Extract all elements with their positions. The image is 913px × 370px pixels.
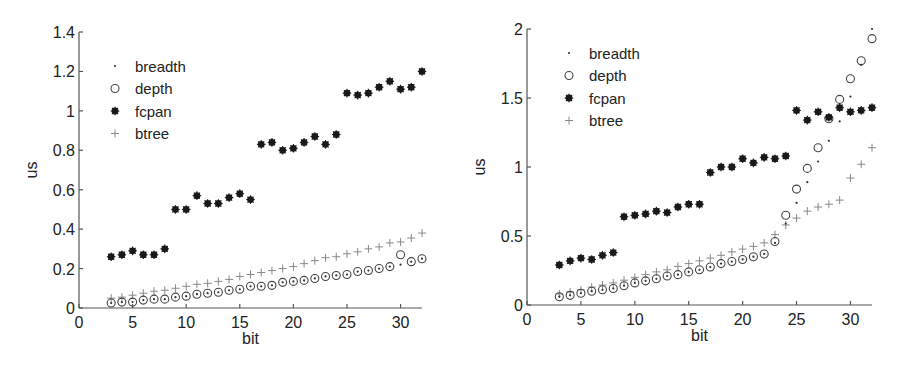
depth-marker: [868, 35, 876, 43]
legend-breadth-marker: [568, 52, 570, 54]
breadth-marker: [260, 285, 262, 287]
btree-marker: [674, 262, 682, 270]
y-tick-label: 1.4: [53, 24, 75, 41]
legend-label: breadth: [589, 45, 640, 62]
btree-marker: [247, 270, 255, 278]
fcpan-marker: [609, 248, 618, 257]
x-tick-label: 15: [680, 311, 698, 328]
depth-marker: [814, 144, 822, 152]
btree-marker: [311, 257, 319, 265]
btree-marker: [236, 272, 244, 280]
breadth-marker: [389, 266, 391, 268]
legend-fcpan-marker: [111, 107, 120, 116]
breadth-marker: [785, 222, 787, 224]
fcpan-marker: [792, 106, 801, 115]
legend-btree-marker: [111, 130, 119, 138]
breadth-marker: [569, 294, 571, 296]
btree-marker: [289, 263, 297, 271]
fcpan-marker: [150, 250, 159, 259]
breadth-marker: [239, 288, 241, 290]
btree-marker: [150, 287, 158, 295]
fcpan-marker: [118, 250, 127, 259]
series-btree: [555, 144, 876, 298]
legend-item-depth: depth: [565, 67, 627, 84]
breadth-marker: [292, 280, 294, 282]
legend-item-depth: depth: [111, 80, 173, 97]
breadth-marker: [314, 277, 316, 279]
breadth-marker: [324, 275, 326, 277]
btree-marker: [803, 207, 811, 215]
btree-marker: [728, 248, 736, 256]
axes: 00.511.52051015202530bitus: [471, 21, 872, 344]
btree-marker: [268, 267, 276, 275]
fcpan-marker: [706, 168, 715, 177]
axes: 00.20.40.60.811.21.4051015202530bitus: [23, 24, 422, 347]
depth-marker: [397, 251, 405, 259]
fcpan-marker: [386, 77, 395, 86]
depth-marker: [857, 57, 865, 65]
btree-marker: [279, 265, 287, 273]
legend-label: depth: [589, 67, 627, 84]
breadth-marker: [871, 28, 873, 30]
x-axis-label: bit: [242, 330, 259, 347]
fcpan-marker: [749, 159, 758, 168]
btree-marker: [418, 229, 426, 237]
breadth-marker: [623, 285, 625, 287]
breadth-marker: [110, 302, 112, 304]
y-tick-label: 1.2: [53, 63, 75, 80]
breadth-marker: [591, 290, 593, 292]
fcpan-marker: [107, 252, 116, 261]
breadth-marker: [303, 279, 305, 281]
fcpan-marker: [577, 254, 586, 263]
legend-label: fcpan: [135, 103, 172, 120]
breadth-marker: [742, 258, 744, 260]
breadth-marker: [849, 96, 851, 98]
fcpan-marker: [225, 193, 234, 202]
fcpan-marker: [652, 207, 661, 216]
btree-marker: [225, 275, 233, 283]
breadth-marker: [367, 269, 369, 271]
x-tick-label: 5: [128, 314, 137, 331]
breadth-marker: [644, 280, 646, 282]
fcpan-marker: [566, 257, 575, 266]
fcpan-marker: [321, 140, 330, 149]
fcpan-marker: [803, 116, 812, 125]
chart-right: 00.511.52051015202530bitusbreadthdepthfc…: [456, 0, 913, 370]
breadth-marker: [806, 181, 808, 183]
breadth-marker: [249, 285, 251, 287]
breadth-marker: [207, 292, 209, 294]
breadth-marker: [174, 296, 176, 298]
btree-marker: [214, 277, 222, 285]
chart-left-plot: 00.20.40.60.811.21.4051015202530bitusbre…: [0, 0, 456, 370]
fcpan-marker: [663, 208, 672, 217]
breadth-marker: [217, 291, 219, 293]
breadth-marker: [271, 284, 273, 286]
fcpan-marker: [738, 154, 747, 163]
btree-marker: [717, 251, 725, 259]
fcpan-marker: [418, 67, 427, 76]
breadth-marker: [774, 242, 776, 244]
legend-label: depth: [135, 80, 173, 97]
breadth-marker: [795, 202, 797, 204]
chart-left: 00.20.40.60.811.21.4051015202530bitusbre…: [0, 0, 456, 370]
depth-marker: [803, 164, 811, 172]
x-tick-label: 30: [842, 311, 860, 328]
breadth-marker: [634, 282, 636, 284]
breadth-marker: [612, 287, 614, 289]
fcpan-marker: [278, 146, 287, 155]
fcpan-marker: [674, 203, 683, 212]
fcpan-marker: [407, 83, 416, 92]
x-axis-label: bit: [691, 327, 708, 344]
fcpan-marker: [268, 138, 277, 147]
fcpan-marker: [214, 199, 223, 208]
fcpan-marker: [781, 152, 790, 161]
legend-item-btree: btree: [111, 125, 169, 142]
breadth-marker: [688, 271, 690, 273]
breadth-marker: [580, 292, 582, 294]
legend-breadth-marker: [114, 65, 116, 67]
breadth-marker: [817, 160, 819, 162]
btree-marker: [300, 260, 308, 268]
depth-marker: [793, 185, 801, 193]
breadth-marker: [666, 275, 668, 277]
fcpan-marker: [128, 247, 137, 256]
